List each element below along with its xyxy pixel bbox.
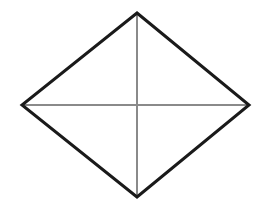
canvas-background [0, 0, 266, 207]
figure-canvas [0, 0, 266, 207]
rhombus-diagram [0, 0, 266, 207]
